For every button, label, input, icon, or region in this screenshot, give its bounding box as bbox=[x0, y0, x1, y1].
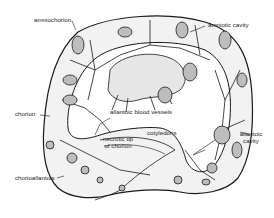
label-necrotic-tip: necrotic tip of chorion bbox=[98, 136, 138, 150]
label-cotyledons: cotyledons bbox=[147, 130, 177, 137]
label-allantoic-blood-vessels: allantoic blood vessels bbox=[110, 109, 172, 116]
label-allantoic-cavity: allantoic cavity bbox=[233, 131, 269, 145]
label-chorion: chorion bbox=[15, 111, 35, 118]
label-amniochorion: amniochorion bbox=[34, 17, 71, 24]
label-chorioallantois: chorioallantois bbox=[15, 175, 55, 182]
label-amniotic-cavity: amniotic cavity bbox=[208, 22, 249, 29]
